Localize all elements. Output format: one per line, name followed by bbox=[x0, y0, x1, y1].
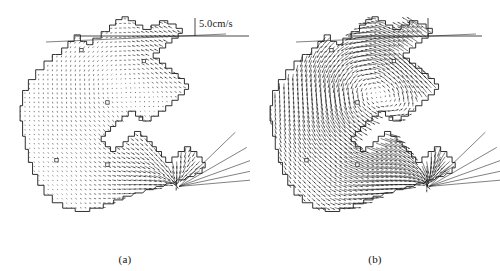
panel-label-a: (a) bbox=[0, 253, 250, 265]
panel-b: 5.0cm/s (b) bbox=[250, 0, 500, 271]
chamber-boundary bbox=[20, 17, 205, 212]
figure-velocity-vector-fields: 5.0cm/s (a) 5.0cm/s (b) bbox=[0, 0, 500, 271]
vector-field-plot-b bbox=[250, 0, 500, 271]
vector-field-plot-a bbox=[0, 0, 250, 271]
panel-a: 5.0cm/s (a) bbox=[0, 0, 250, 271]
scale-bar-label-a: 5.0cm/s bbox=[199, 18, 233, 29]
panel-label-b: (b) bbox=[250, 253, 500, 265]
